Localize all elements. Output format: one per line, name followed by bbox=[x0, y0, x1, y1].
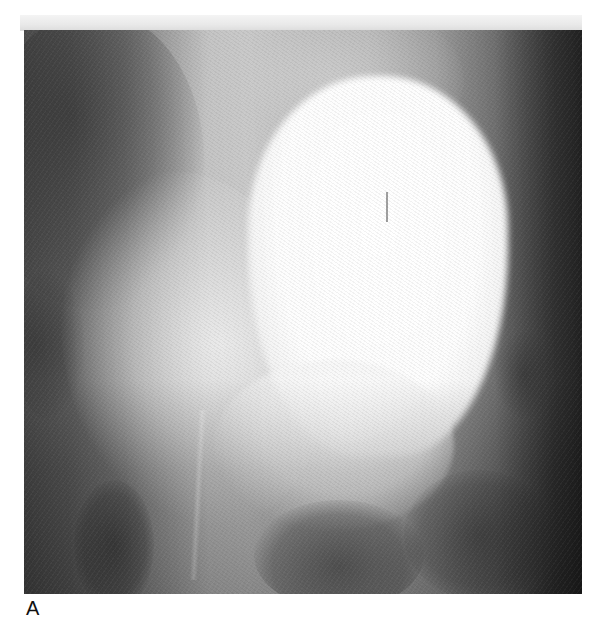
right-obturator-foramen bbox=[404, 470, 554, 594]
film-top-band bbox=[20, 15, 582, 31]
film-bottom-shade bbox=[24, 30, 582, 594]
pubic-region-shadow bbox=[254, 500, 424, 594]
left-obturator-foramen bbox=[74, 480, 154, 594]
right-pelvic-shadow bbox=[494, 30, 582, 594]
film-grain bbox=[24, 30, 582, 594]
radiograph-image bbox=[24, 30, 582, 594]
sacrum-haze bbox=[204, 30, 464, 160]
panel-label: A bbox=[26, 598, 39, 618]
bladder-artifact-mark bbox=[386, 192, 388, 222]
contrast-filled-bladder bbox=[248, 76, 508, 456]
left-iliac-shadow bbox=[24, 30, 204, 310]
film-base-tone bbox=[24, 30, 582, 594]
catheter-streak bbox=[190, 410, 207, 580]
contrast-extravasation-haze bbox=[29, 147, 358, 553]
left-hip-shadow bbox=[24, 270, 84, 420]
right-acetabular-shadow bbox=[494, 330, 554, 420]
bladder-base bbox=[214, 360, 454, 530]
